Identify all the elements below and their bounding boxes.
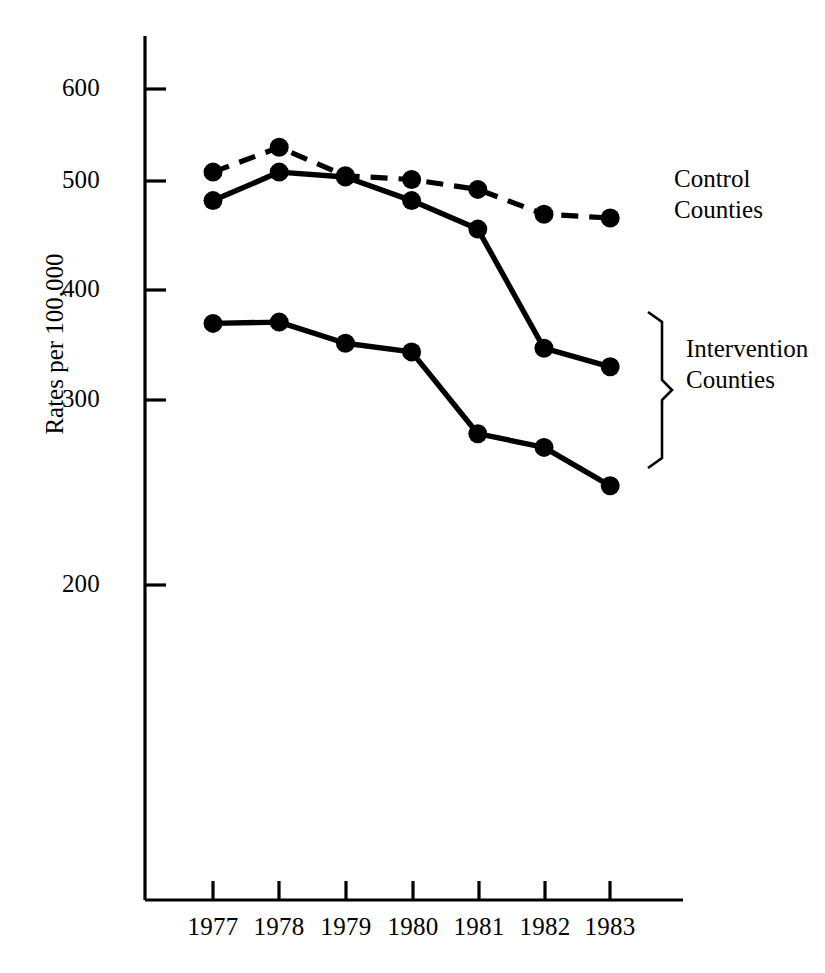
data-point-marker xyxy=(402,170,421,189)
data-point-marker xyxy=(270,163,289,182)
y-tick-label-400: 400 xyxy=(10,275,100,303)
data-point-marker xyxy=(535,205,554,224)
control-annotation-line1: Control xyxy=(674,163,763,194)
data-point-marker xyxy=(468,424,487,443)
data-point-marker xyxy=(336,168,355,187)
data-point-marker xyxy=(204,314,223,333)
y-axis-title: Rates per 100,000 xyxy=(41,214,69,474)
y-axis-ticks xyxy=(145,89,166,585)
data-point-marker xyxy=(601,476,620,495)
intervention-bracket xyxy=(648,312,672,468)
y-tick-label-600: 600 xyxy=(10,74,100,102)
data-point-marker xyxy=(535,339,554,358)
series-markers-intervention-lower xyxy=(204,313,620,496)
series-annotation-intervention-counties: Intervention Counties xyxy=(686,333,808,396)
data-point-marker xyxy=(270,138,289,157)
data-point-marker xyxy=(468,180,487,199)
chart-figure: Rates per 100,000 600 500 400 300 200 19… xyxy=(0,0,825,973)
y-tick-label-500: 500 xyxy=(10,166,100,194)
data-point-marker xyxy=(535,438,554,457)
data-point-marker xyxy=(204,191,223,210)
data-point-marker xyxy=(204,163,223,182)
data-point-marker xyxy=(601,357,620,376)
x-axis-ticks xyxy=(213,881,610,900)
data-point-marker xyxy=(402,191,421,210)
data-point-marker xyxy=(468,220,487,239)
data-point-marker xyxy=(270,313,289,332)
x-tick-label-1983: 1983 xyxy=(570,913,650,941)
series-annotation-control-counties: Control Counties xyxy=(674,163,763,226)
data-point-marker xyxy=(336,334,355,353)
line-chart-canvas xyxy=(0,0,825,973)
data-point-marker xyxy=(601,209,620,228)
intervention-annotation-line1: Intervention xyxy=(686,333,808,364)
control-annotation-line2: Counties xyxy=(674,194,763,225)
intervention-annotation-line2: Counties xyxy=(686,364,808,395)
y-tick-label-200: 200 xyxy=(10,570,100,598)
data-point-marker xyxy=(402,342,421,361)
y-tick-label-300: 300 xyxy=(10,385,100,413)
